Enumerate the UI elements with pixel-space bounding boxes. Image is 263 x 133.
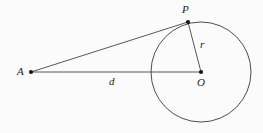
label-distance-d: d <box>109 76 115 87</box>
point-a-dot <box>29 70 33 74</box>
geometry-figure: P A O d r <box>0 0 263 133</box>
point-o-dot <box>199 70 203 74</box>
label-radius-r: r <box>200 39 204 50</box>
segment-ap-tangent <box>31 22 188 72</box>
point-p-dot <box>186 20 190 24</box>
label-point-p: P <box>182 4 189 15</box>
label-point-o: O <box>197 77 205 88</box>
label-point-a: A <box>17 66 24 77</box>
geometry-canvas <box>0 0 263 133</box>
